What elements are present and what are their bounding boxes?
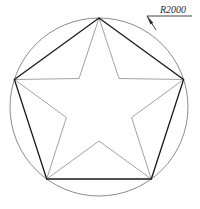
radius-dimension-label: R2000: [159, 4, 186, 15]
geometric-drawing-canvas: R2000: [0, 0, 200, 209]
drawing-background: [0, 0, 200, 209]
